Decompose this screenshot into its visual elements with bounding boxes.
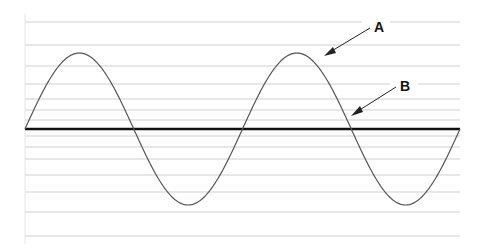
arrow-b — [351, 87, 396, 116]
waveform-diagram: A B — [0, 0, 484, 250]
arrow-a — [324, 28, 370, 56]
label-a: A — [374, 19, 384, 35]
arrowhead-b-icon — [351, 106, 363, 116]
arrowhead-a-icon — [324, 47, 336, 56]
label-b: B — [400, 78, 410, 94]
